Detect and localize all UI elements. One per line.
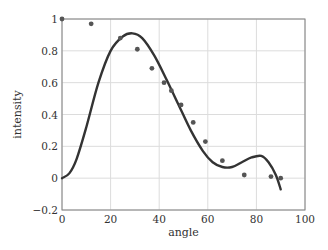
- data-point: [242, 173, 247, 178]
- tick-labels: 020406080100−0.200.20.40.60.81: [33, 13, 316, 225]
- y-tick-label: 0.8: [41, 45, 58, 57]
- data-point: [89, 21, 94, 26]
- x-axis-label: angle: [168, 226, 199, 239]
- x-tick-label: 0: [59, 213, 66, 225]
- y-tick-label: 0.4: [41, 109, 58, 121]
- y-tick-label: 0.2: [41, 140, 58, 152]
- y-tick-label: 0: [51, 172, 58, 184]
- x-tick-label: 60: [201, 213, 214, 225]
- x-tick-label: 40: [153, 213, 166, 225]
- data-point: [203, 139, 208, 144]
- fit-line: [62, 33, 281, 189]
- data-point: [220, 158, 225, 163]
- y-tick-label: 0.6: [41, 77, 58, 89]
- y-tick-label: −0.2: [33, 204, 59, 216]
- y-tick-label: 1: [51, 13, 58, 25]
- data-point: [278, 176, 283, 181]
- x-tick-label: 20: [104, 213, 117, 225]
- data-point: [162, 80, 167, 85]
- data-point: [179, 103, 184, 108]
- y-axis-label: intensity: [11, 90, 24, 139]
- data-point: [135, 47, 140, 52]
- x-tick-label: 80: [250, 213, 263, 225]
- data-point: [269, 174, 274, 179]
- x-tick-label: 100: [295, 213, 315, 225]
- data-point: [118, 36, 123, 41]
- chart: 020406080100−0.200.20.40.60.81 angle int…: [0, 0, 328, 250]
- data-point: [150, 66, 155, 71]
- data-point: [169, 88, 174, 93]
- fit-curve: [62, 33, 281, 189]
- data-point: [60, 17, 65, 22]
- data-point: [191, 120, 196, 125]
